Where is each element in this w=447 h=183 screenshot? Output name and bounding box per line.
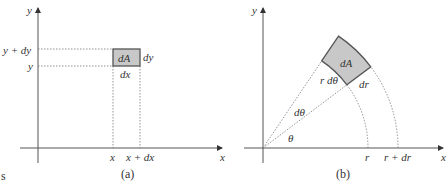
width-label: dx: [120, 68, 131, 80]
theta-label: θ: [288, 132, 294, 144]
fragment-text: s: [1, 169, 6, 183]
panel-b: dA r dθ dr dθ θ r r + dr x y (b): [244, 4, 446, 181]
element-label: dA: [118, 52, 131, 64]
dtheta-label: dθ: [294, 106, 306, 118]
tick-y-plus: y + dy: [2, 44, 31, 56]
radial-label: dr: [359, 78, 370, 90]
height-label: dy: [143, 51, 154, 63]
y-axis-label: y: [251, 4, 257, 16]
tick-y: y: [27, 60, 33, 72]
arc-label: r dθ: [320, 74, 339, 86]
x-axis-label: x: [440, 151, 446, 163]
caption-a: (a): [121, 167, 134, 181]
tick-r-plus: r + dr: [384, 151, 412, 163]
tick-x: x: [109, 151, 115, 163]
panel-a: dA dy dx y + dy y x x + dx x y (a): [2, 4, 225, 181]
tick-r: r: [365, 151, 370, 163]
area-element-diagram: dA dy dx y + dy y x x + dx x y (a) s dA …: [0, 0, 447, 183]
tick-x-plus: x + dx: [125, 151, 154, 163]
element-label: dA: [340, 57, 353, 69]
x-axis-label: x: [219, 151, 225, 163]
y-axis-label: y: [26, 4, 32, 16]
caption-b: (b): [336, 167, 350, 181]
